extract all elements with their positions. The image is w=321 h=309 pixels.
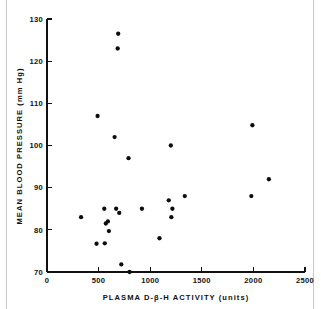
data-point xyxy=(119,262,123,266)
data-point xyxy=(106,219,110,223)
data-point xyxy=(95,114,99,118)
data-point xyxy=(127,270,131,274)
y-tick-label: 100 xyxy=(29,141,43,150)
x-axis-ticks: 05001000150020002500 xyxy=(45,267,314,285)
data-point xyxy=(250,123,254,127)
x-tick-label: 1500 xyxy=(193,276,211,285)
data-point xyxy=(103,241,107,245)
x-tick-label: 2500 xyxy=(296,276,314,285)
y-tick-label: 70 xyxy=(34,268,43,277)
data-point xyxy=(169,143,173,147)
data-point xyxy=(94,242,98,246)
data-point xyxy=(183,194,187,198)
data-point xyxy=(102,207,106,211)
x-tick-label: 0 xyxy=(45,276,50,285)
data-point xyxy=(116,32,120,36)
y-tick-label: 80 xyxy=(34,226,43,235)
data-point xyxy=(249,194,253,198)
y-tick-label: 120 xyxy=(29,57,43,66)
scatter-plot-figure: 708090100110120130 05001000150020002500 … xyxy=(0,0,321,309)
data-point xyxy=(79,215,83,219)
data-point xyxy=(170,207,174,211)
y-tick-label: 90 xyxy=(34,183,43,192)
data-point xyxy=(126,156,130,160)
y-axis-title: MEAN BLOOD PRESSURE (mm Hg) xyxy=(15,67,24,224)
data-point xyxy=(112,135,116,139)
data-point-group xyxy=(79,32,271,275)
data-point xyxy=(114,207,118,211)
data-point xyxy=(116,46,120,50)
data-point xyxy=(169,215,173,219)
x-tick-label: 500 xyxy=(92,276,106,285)
y-tick-label: 110 xyxy=(30,99,43,108)
x-tick-label: 1000 xyxy=(141,276,159,285)
plot-canvas: 708090100110120130 05001000150020002500 … xyxy=(0,0,321,309)
data-point xyxy=(107,229,111,233)
data-point xyxy=(167,198,171,202)
y-tick-label: 130 xyxy=(29,15,43,24)
x-tick-label: 2000 xyxy=(244,276,262,285)
x-axis-title: PLASMA D-β-H ACTIVITY (units) xyxy=(103,293,250,302)
data-point xyxy=(140,207,144,211)
y-axis-ticks: 708090100110120130 xyxy=(29,15,52,277)
data-point xyxy=(157,236,161,240)
data-point xyxy=(267,177,271,181)
data-point xyxy=(117,211,121,215)
